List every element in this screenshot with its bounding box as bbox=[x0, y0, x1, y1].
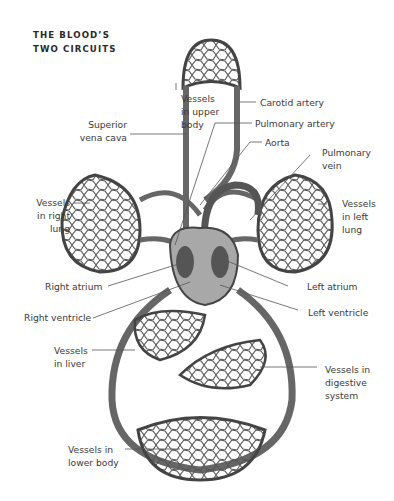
title-line-1: THE BLOOD’S bbox=[33, 28, 117, 42]
label-right-atrium: Right atrium bbox=[45, 280, 102, 293]
diagram-title: THE BLOOD’S TWO CIRCUITS bbox=[33, 28, 117, 56]
label-vessels-digestive: Vessels in digestive system bbox=[325, 363, 370, 402]
label-vessels-right-lung: Vessels in right lung bbox=[20, 196, 70, 235]
label-left-ventricle: Left ventricle bbox=[308, 306, 368, 319]
label-right-ventricle: Right ventricle bbox=[24, 311, 91, 324]
label-left-atrium: Left atrium bbox=[307, 280, 358, 293]
upper-body-capillaries bbox=[183, 40, 240, 88]
label-pulmonary-artery: Pulmonary artery bbox=[255, 117, 335, 130]
digestive-capillaries bbox=[180, 340, 266, 388]
liver-capillaries bbox=[135, 311, 205, 360]
right-lung-capillaries bbox=[62, 175, 140, 272]
label-carotid-artery: Carotid artery bbox=[260, 96, 324, 109]
title-line-2: TWO CIRCUITS bbox=[33, 42, 117, 56]
label-vessels-upper-body: Vessels in upper body bbox=[181, 92, 219, 131]
heart bbox=[170, 228, 238, 305]
label-vessels-left-lung: Vessels in left lung bbox=[342, 197, 376, 236]
label-pulmonary-vein: Pulmonary vein bbox=[322, 146, 371, 172]
label-vessels-lower-body: Vessels in lower body bbox=[68, 443, 119, 469]
label-superior-vena-cava: Superior vena cava bbox=[75, 118, 127, 144]
circulation-diagram bbox=[0, 0, 394, 501]
label-vessels-liver: Vessels in liver bbox=[54, 344, 88, 370]
left-lung-capillaries bbox=[258, 175, 332, 272]
label-aorta: Aorta bbox=[265, 136, 290, 149]
